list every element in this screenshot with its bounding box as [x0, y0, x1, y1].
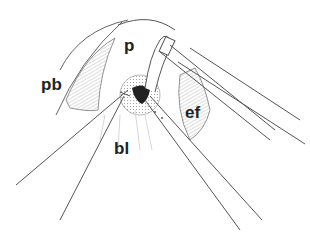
- left-tissue: [66, 38, 115, 111]
- label-pb: pb: [41, 76, 62, 93]
- label-p: p: [124, 37, 134, 54]
- p-region: [118, 20, 175, 30]
- label-ef: ef: [185, 104, 200, 121]
- label-bl: bl: [114, 140, 129, 157]
- surgical-illustration: [0, 0, 310, 248]
